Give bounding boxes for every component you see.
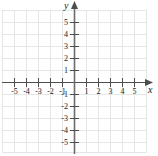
x-tick-label-3: 3 (106, 88, 115, 96)
x-axis-label: x (148, 85, 152, 95)
x-tick-label-2: 2 (94, 88, 103, 96)
y-tick-label-3: 3 (52, 43, 68, 51)
x-tick-label-5: 5 (130, 88, 139, 96)
y-tick-label-1: 1 (52, 67, 68, 75)
y-tick-label--2: -2 (52, 103, 68, 111)
x-tick-label-4: 4 (118, 88, 127, 96)
y-tick-label-4: 4 (52, 31, 68, 39)
y-tick-label--5: -5 (52, 139, 68, 147)
y-tick-label-5: 5 (52, 19, 68, 27)
y-axis-arrowhead (71, 1, 78, 9)
y-tick-label--4: -4 (52, 127, 68, 135)
x-tick-label-1: 1 (82, 88, 91, 96)
y-tick-label--3: -3 (52, 115, 68, 123)
coordinate-grid (0, 0, 158, 156)
y-tick-label-2: 2 (52, 55, 68, 63)
y-axis-label: y (64, 1, 68, 11)
coordinate-plane-figure: y x -5 -4 -3 -2 -1 1 2 3 4 5 5 4 3 2 1 -… (0, 0, 158, 156)
y-tick-label--1: -1 (52, 91, 68, 99)
